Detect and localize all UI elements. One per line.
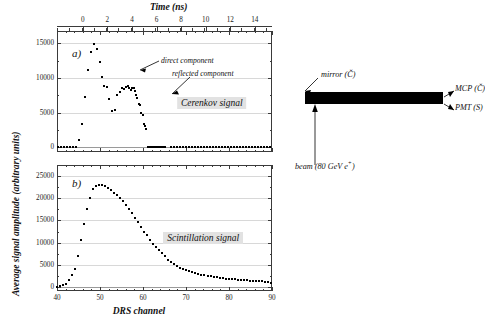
x-minor-tick (134, 289, 135, 291)
data-point (122, 200, 124, 202)
y-tick-mark (57, 198, 61, 199)
y-tick-mark (268, 176, 272, 177)
y-minor-tick (57, 276, 59, 277)
x-minor-tick (255, 289, 256, 291)
y-minor-tick (270, 254, 272, 255)
x-minor-tick (220, 165, 221, 167)
data-point (65, 283, 67, 285)
data-point (113, 192, 115, 194)
data-point (237, 279, 239, 281)
data-point (243, 279, 245, 281)
x-minor-tick (246, 165, 247, 167)
detector-bar (305, 92, 443, 104)
x-minor-tick (203, 165, 204, 167)
x-tick-mark (57, 287, 58, 291)
y-tick-mark (57, 220, 61, 221)
x-minor-tick (109, 165, 110, 167)
data-point (261, 280, 263, 282)
data-point (158, 249, 160, 251)
x-minor-tick (66, 165, 67, 167)
x-tick-label: 80 (225, 294, 232, 302)
x-tick-label: 60 (139, 294, 146, 302)
x-minor-tick (109, 289, 110, 291)
y-tick-mark (57, 243, 61, 244)
data-point (83, 223, 85, 225)
x-minor-tick (91, 289, 92, 291)
x-minor-tick (195, 165, 196, 167)
data-point (119, 197, 121, 199)
y-tick-label: 20000 (26, 194, 54, 202)
data-point (92, 188, 94, 190)
data-point (95, 185, 97, 187)
x-minor-tick (74, 289, 75, 291)
data-point (167, 259, 169, 261)
data-point (231, 278, 233, 280)
data-point (59, 285, 61, 287)
data-point (131, 212, 133, 214)
data-point (80, 239, 82, 241)
y-tick-label: 25000 (26, 172, 54, 180)
data-point (258, 280, 260, 282)
data-point (164, 255, 166, 257)
data-point (74, 268, 76, 270)
x-tick-label: 70 (182, 294, 189, 302)
x-minor-tick (152, 165, 153, 167)
data-point (228, 278, 230, 280)
data-point (143, 231, 145, 233)
data-point (264, 281, 266, 283)
pmt-label: PMT (S) (455, 103, 483, 112)
data-point (200, 274, 202, 276)
x-minor-tick (212, 165, 213, 167)
y-tick-label: 10000 (26, 239, 54, 247)
data-point (71, 274, 73, 276)
x-minor-tick (134, 165, 135, 167)
x-minor-tick (177, 165, 178, 167)
gridline (58, 176, 271, 177)
y-tick-label: 0 (26, 283, 54, 291)
x-minor-tick (195, 289, 196, 291)
y-tick-label: 15000 (26, 216, 54, 224)
data-point (216, 276, 218, 278)
data-point (128, 208, 130, 210)
x-minor-tick (160, 165, 161, 167)
x-minor-tick (83, 289, 84, 291)
x-tick-label: 50 (96, 294, 103, 302)
x-tick-mark (186, 287, 187, 291)
x-minor-tick (83, 165, 84, 167)
x-minor-tick (117, 289, 118, 291)
data-point (161, 252, 163, 254)
x-minor-tick (238, 165, 239, 167)
x-minor-tick (246, 289, 247, 291)
data-point (155, 246, 157, 248)
x-minor-tick (212, 289, 213, 291)
data-point (194, 272, 196, 274)
x-tick-mark (229, 287, 230, 291)
x-tick-mark (272, 287, 273, 291)
x-tick-label: 90 (268, 294, 275, 302)
data-point (222, 277, 224, 279)
x-minor-tick (263, 165, 264, 167)
x-tick-mark (100, 287, 101, 291)
data-point (179, 267, 181, 269)
y-minor-tick (270, 232, 272, 233)
data-point (255, 280, 257, 282)
beam-label: beam (80 GeV e+) (295, 160, 355, 171)
x-minor-tick (263, 289, 264, 291)
data-point (270, 282, 272, 284)
x-tick-label: 40 (53, 294, 60, 302)
data-point (107, 187, 109, 189)
data-point (101, 184, 103, 186)
data-point (234, 278, 236, 280)
y-tick-mark (268, 198, 272, 199)
data-point (110, 189, 112, 191)
x-minor-tick (177, 289, 178, 291)
x-tick-mark (229, 165, 230, 169)
data-point (240, 279, 242, 281)
x-minor-tick (203, 289, 204, 291)
x-minor-tick (160, 289, 161, 291)
y-tick-mark (57, 265, 61, 266)
x-tick-mark (143, 165, 144, 169)
data-point (125, 204, 127, 206)
data-point (140, 226, 142, 228)
data-point (56, 286, 58, 288)
